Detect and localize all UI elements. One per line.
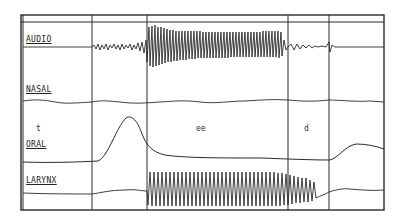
channel-label-oral: ORAL: [26, 140, 46, 149]
channel-label-nasal: NASAL: [26, 85, 52, 94]
channel-label-larynx: LARYNX: [26, 176, 57, 185]
segment-label-t: t: [36, 124, 41, 133]
segment-label-ee: ee: [196, 124, 206, 133]
audio-trace: [23, 25, 384, 67]
larynx-trace: [23, 172, 384, 206]
segment-label-d: d: [304, 124, 309, 133]
nasal-trace: [23, 100, 384, 104]
channel-label-audio: AUDIO: [26, 35, 52, 44]
speech-trace-figure: [0, 0, 402, 223]
